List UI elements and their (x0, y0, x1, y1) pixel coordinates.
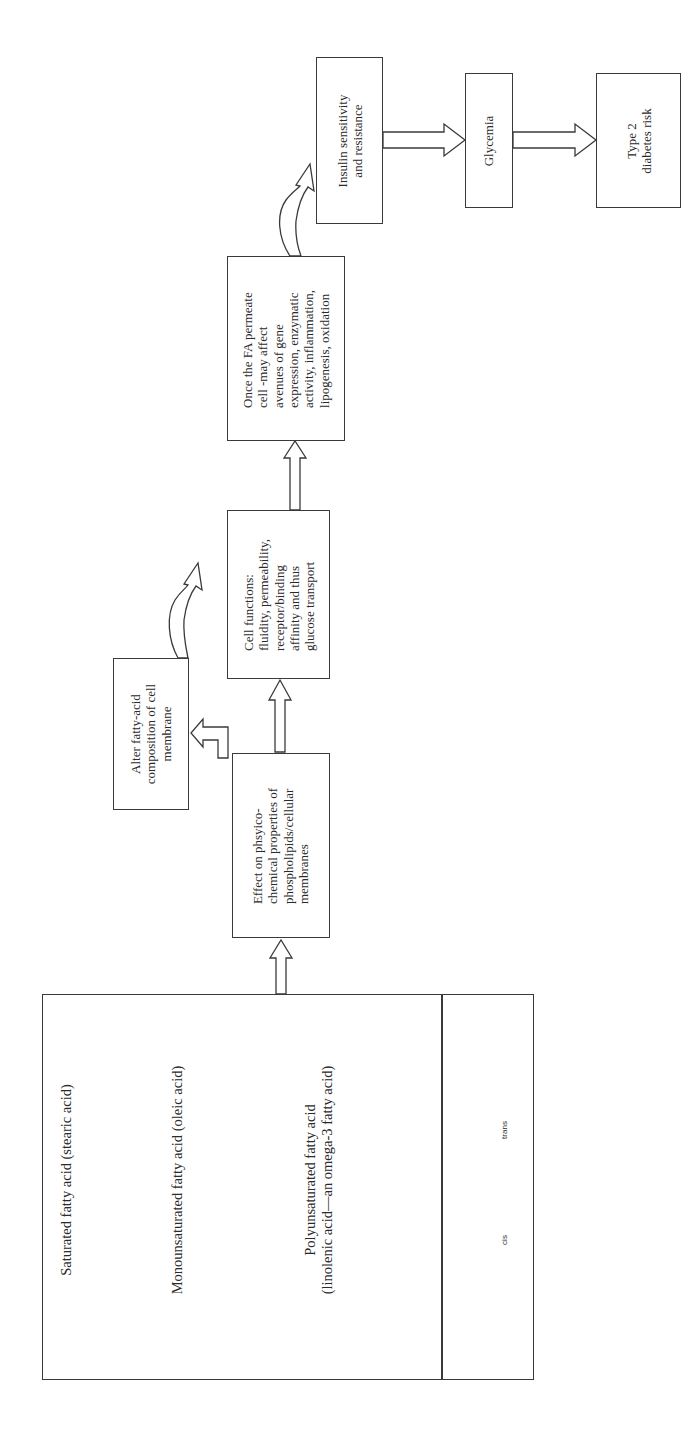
effect-on-membranes-box: Effect on phsyico- chemical properties o… (232, 753, 330, 938)
alter-fatty-acid-composition-box: Alter fatty-acid composition of cell mem… (113, 658, 189, 810)
cell-functions-box: Cell functions: fluidity, permeability, … (227, 510, 330, 679)
arrow-glycemia-to-type2 (513, 124, 596, 156)
once-fa-permeate-box: Once the FA permeate cell -may affect av… (227, 256, 345, 441)
cis-label: cis (498, 1225, 512, 1255)
arrow-alter-to-cellfunc-curved (169, 563, 202, 658)
type2-diabetes-risk-box: Type 2 diabetes risk (596, 73, 681, 208)
arrow-effect-to-cellfunc (269, 680, 291, 752)
fatty-acid-types-box (42, 994, 534, 1380)
monounsaturated-title: Monounsaturated fatty acid (oleic acid) (163, 1030, 193, 1330)
glycemia-box: Glycemia (465, 73, 513, 208)
insulin-sensitivity-box: Insulin sensitivity and resistance (316, 57, 383, 224)
arrow-once-to-insulin-curved (280, 164, 314, 256)
trans-label: trans (498, 1115, 512, 1145)
arrow-source-to-effect (270, 940, 292, 994)
polyunsaturated-title: Polyunsaturated fatty acid (linolenic ac… (294, 1030, 344, 1330)
saturated-title: Saturated fatty acid (stearic acid) (52, 1040, 82, 1320)
isomer-divider (441, 995, 443, 1379)
arrow-cellfunc-to-once (284, 441, 306, 510)
arrow-insulin-to-glycemia (383, 124, 465, 156)
arrow-effect-to-alter (191, 719, 228, 758)
